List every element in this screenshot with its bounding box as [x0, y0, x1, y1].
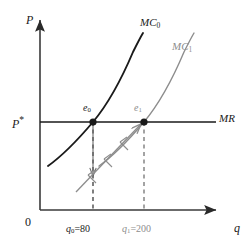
mc1-curve-label: MC1: [172, 41, 192, 52]
equilibrium-point-e1[interactable]: [140, 118, 147, 125]
y-axis-label: P: [26, 14, 33, 26]
equilibrium-label-e0: e0: [83, 103, 91, 113]
mc0-curve-label: MC0: [140, 17, 160, 28]
economics-diagram: P P* q 0 MR MC0 MC1 e0 e1 q0=80 q1=200: [0, 0, 252, 244]
price-star-label: P*: [12, 115, 24, 130]
adjustment-arrow-ticks: [88, 137, 128, 183]
adjustment-arrow-shaft: [76, 124, 141, 192]
q0-tick-label: q0=80: [66, 224, 90, 234]
mc1-curve: [99, 33, 194, 166]
mr-curve-label: MR: [219, 113, 235, 124]
mc0-curve: [48, 33, 143, 166]
equilibrium-point-e0[interactable]: [89, 118, 96, 125]
chart-canvas: [0, 0, 252, 244]
origin-label: 0: [25, 216, 31, 228]
equilibrium-label-e1: e1: [134, 103, 142, 113]
adjustment-arrow-group: [76, 124, 141, 192]
q1-tick-label: q1=200: [122, 224, 151, 234]
x-axis-label: q: [234, 222, 240, 234]
